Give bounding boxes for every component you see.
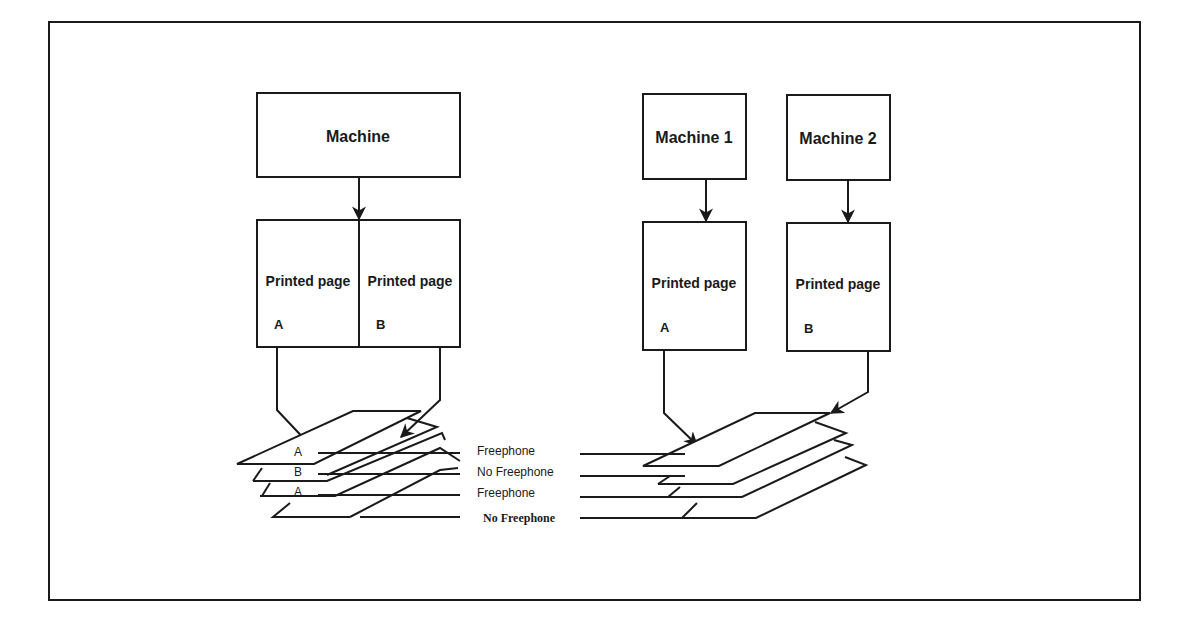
legend-row-4: No Freephone	[483, 511, 556, 525]
printed-page-b-letter-right: B	[804, 321, 813, 336]
stack-letter-b: B	[294, 465, 302, 479]
legend-row-3: Freephone	[477, 486, 535, 500]
stack-letter-a-top: A	[294, 445, 302, 459]
printed-page-b-letter: B	[376, 317, 385, 332]
legend: Freephone No Freephone Freephone No Free…	[477, 444, 556, 525]
arrow-page-b-to-stack-right	[831, 351, 868, 413]
machine-2-label: Machine 2	[799, 130, 876, 147]
printed-page-a-letter-right: A	[660, 320, 670, 335]
sheet-stack-left	[237, 411, 460, 517]
arrow-page-a-to-stack-right	[664, 350, 697, 445]
sheet-stack-right	[580, 413, 866, 518]
outer-frame	[49, 22, 1140, 600]
machine-1-label: Machine 1	[655, 129, 732, 146]
arrow-page-b-to-stack	[401, 347, 440, 437]
sheet-top-left	[237, 411, 421, 464]
stack-letter-a-bottom: A	[294, 485, 302, 499]
diagram-canvas: Machine Printed page A Printed page B A …	[0, 0, 1179, 635]
printed-page-b-label: Printed page	[368, 273, 453, 289]
right-setup: Machine 1 Printed page A Machine 2 Print…	[580, 94, 890, 518]
legend-row-1: Freephone	[477, 444, 535, 458]
printed-page-b-label-right: Printed page	[796, 276, 881, 292]
legend-row-2: No Freephone	[477, 465, 554, 479]
printed-page-a-label: Printed page	[266, 273, 351, 289]
left-setup: Machine Printed page A Printed page B A …	[237, 93, 460, 517]
machine-label: Machine	[326, 128, 390, 145]
arrow-page-a-to-stack	[277, 347, 310, 445]
printed-page-a-label-right: Printed page	[652, 275, 737, 291]
printed-page-a-letter: A	[274, 317, 284, 332]
